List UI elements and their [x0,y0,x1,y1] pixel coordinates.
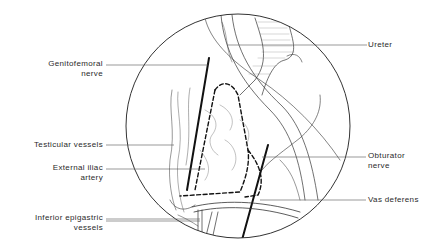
ureter-structure [240,18,302,95]
field-circle [126,14,350,238]
label-line: Vas deferens [368,195,419,205]
label-obturator-nerve: Obturator nerve [368,151,405,170]
label-line: Ureter [368,40,392,50]
label-line: artery [53,173,103,183]
label-inferior-epigastric-vessels: Inferior epigastric vessels [35,213,103,232]
label-line: vessels [35,223,103,233]
label-line: Inferior epigastric [35,213,103,223]
label-line: Obturator [368,151,405,161]
label-genitofemoral-nerve: Genitofemoral nerve [48,59,103,78]
label-line: nerve [368,161,405,171]
label-external-iliac-artery: External iliac artery [53,163,103,182]
label-line: Testicular vessels [34,140,103,150]
label-testicular-vessels: Testicular vessels [34,140,103,150]
label-line: Genitofemoral [48,59,103,69]
label-line: nerve [48,69,103,79]
label-vas-deferens: Vas deferens [368,195,419,205]
anatomy-diagram: Genitofemoral nerve Ureter Testicular ve… [0,0,442,250]
label-ureter: Ureter [368,40,392,50]
label-line: External iliac [53,163,103,173]
leader-lines [106,45,367,221]
